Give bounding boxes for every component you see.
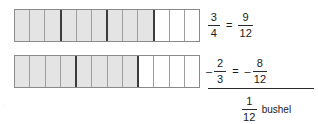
- fraction-three-fourths: 3 4: [208, 12, 220, 39]
- bar-segment: [108, 10, 123, 41]
- bar-segment: [154, 56, 169, 87]
- bar-segment: [30, 56, 45, 87]
- fraction-bar: [214, 71, 226, 72]
- bar-segment: [92, 56, 107, 87]
- minus-sign-right: –: [245, 66, 253, 77]
- bar-segment: [46, 56, 61, 87]
- equals-sign: =: [226, 66, 244, 77]
- unit-label: bushel: [257, 105, 291, 115]
- fraction-eight-twelfths: 8 12: [253, 58, 268, 85]
- bar-segment: [170, 56, 185, 87]
- bar-segment: [92, 10, 108, 41]
- equals-sign: =: [220, 20, 238, 31]
- bar-model-two-thirds: [14, 55, 200, 88]
- fraction-numerator: 8: [256, 58, 264, 69]
- bar-segment: [77, 10, 92, 41]
- bar-segment: [123, 56, 139, 87]
- fraction-numerator: 1: [245, 96, 253, 107]
- fraction-two-thirds: 2 3: [214, 58, 226, 85]
- equation-column: 3 4 = 9 12 – 2 3 = – 8 12: [204, 6, 316, 122]
- fraction-denominator: 12: [238, 28, 253, 39]
- bar-segment: [185, 56, 199, 87]
- page-artifact-mark: ·: [3, 101, 8, 110]
- bar-segment: [108, 56, 123, 87]
- bar-segment: [62, 10, 77, 41]
- bar-segment: [15, 56, 30, 87]
- bar-segment: [30, 10, 45, 41]
- fraction-bar: [253, 71, 268, 72]
- subtraction-rule: [208, 88, 314, 89]
- bar-segment: [139, 56, 154, 87]
- fraction-denominator: 4: [210, 28, 218, 39]
- bar-model-three-fourths: [14, 9, 200, 42]
- fraction-bar: [242, 109, 257, 110]
- bar-segment: [77, 56, 92, 87]
- bar-segment: [15, 10, 30, 41]
- minus-sign-left: –: [206, 66, 214, 77]
- fraction-nine-twelfths: 9 12: [238, 12, 253, 39]
- equation-row-three-fourths: 3 4 = 9 12: [208, 12, 253, 39]
- fraction-denominator: 3: [216, 74, 224, 85]
- bar-segment: [138, 10, 154, 41]
- fraction-denominator: 12: [242, 112, 257, 123]
- bar-segment: [61, 56, 77, 87]
- bar-segment: [185, 10, 199, 41]
- bar-segment: [170, 10, 185, 41]
- fraction-denominator: 12: [253, 74, 268, 85]
- bar-segment: [155, 10, 170, 41]
- fraction-numerator: 3: [210, 12, 218, 23]
- equation-row-answer: 1 12 bushel: [242, 96, 291, 123]
- bar-segment: [45, 10, 61, 41]
- fraction-one-twelfth: 1 12: [242, 96, 257, 123]
- equation-row-two-thirds: – 2 3 = – 8 12: [206, 58, 267, 85]
- fraction-numerator: 9: [242, 12, 250, 23]
- bar-segment: [123, 10, 138, 41]
- fraction-bar: [208, 25, 220, 26]
- fraction-numerator: 2: [216, 58, 224, 69]
- worksheet-canvas: 3 4 = 9 12 – 2 3 = – 8 12: [0, 0, 318, 124]
- fraction-bar: [238, 25, 253, 26]
